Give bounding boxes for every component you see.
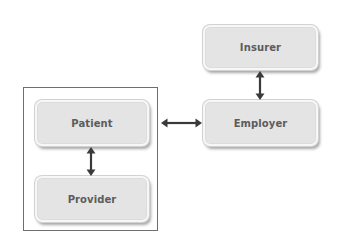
patient-provider-arrow-icon: [86, 147, 96, 176]
insurer-label: Insurer: [240, 42, 281, 53]
employer-node: Employer: [203, 100, 318, 146]
provider-label: Provider: [68, 194, 117, 205]
diagram-canvas: Insurer Employer Patient Provider: [0, 0, 344, 251]
patient-node: Patient: [35, 100, 149, 146]
patient-label: Patient: [71, 118, 112, 129]
patient-employer-arrow-icon: [161, 118, 202, 128]
provider-node: Provider: [35, 176, 149, 222]
insurer-node: Insurer: [203, 25, 318, 70]
employer-label: Employer: [234, 118, 288, 129]
insurer-employer-arrow-icon: [255, 71, 265, 100]
